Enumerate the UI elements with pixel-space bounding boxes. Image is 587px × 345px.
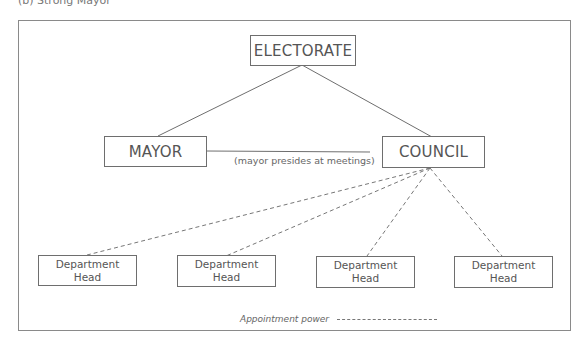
department-label-line1: Department [195, 258, 259, 271]
department-head-node: Department Head [454, 256, 553, 288]
council-label: COUNCIL [399, 143, 468, 161]
mayor-council-line [206, 151, 370, 152]
dashed-line-legend-icon [337, 319, 437, 320]
legend-label: Appointment power [240, 314, 329, 324]
department-head-node: Department Head [177, 255, 276, 287]
mayor-council-link-label: (mayor presides at meetings) [234, 155, 375, 166]
department-label-line1: Department [472, 259, 536, 272]
department-label-line2: Head [213, 271, 240, 284]
department-label-line2: Head [352, 272, 379, 285]
department-head-node: Department Head [316, 256, 415, 288]
council-node: COUNCIL [382, 136, 485, 168]
electorate-node: ELECTORATE [250, 35, 356, 66]
appointment-line-3 [367, 168, 430, 256]
electorate-council-line [302, 65, 432, 137]
department-head-node: Department Head [38, 255, 137, 286]
electorate-mayor-line [158, 65, 302, 136]
appointment-line-4 [430, 168, 502, 256]
mayor-label: MAYOR [129, 143, 183, 161]
department-label-line1: Department [56, 258, 120, 271]
electorate-label: ELECTORATE [254, 42, 352, 60]
mayor-node: MAYOR [104, 136, 207, 167]
department-label-line1: Department [334, 259, 398, 272]
legend: Appointment power [240, 314, 437, 324]
department-label-line2: Head [490, 272, 517, 285]
department-label-line2: Head [74, 271, 101, 284]
appointment-line-1 [87, 168, 430, 255]
